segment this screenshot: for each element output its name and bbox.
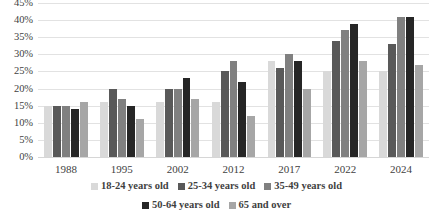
y-axis: 45%40%35%30%25%20%15%10%5%0% [0,0,36,160]
bar [303,89,311,157]
x-axis-tick-label: 2012 [206,160,262,178]
bar-chart: 45%40%35%30%25%20%15%10%5%0% 19881995200… [0,0,433,217]
bar [44,106,52,157]
chart-legend: 18-24 years old25-34 years old35-49 year… [0,177,433,215]
x-axis-tick-label: 1995 [94,160,150,178]
bar-group-inner [44,0,88,157]
x-axis-tick-label: 2002 [150,160,206,178]
bar-group-inner [379,0,423,157]
bar-group-inner [156,0,200,157]
legend-swatch-icon [229,202,236,209]
bar [71,109,79,157]
y-axis-tick-label: 40% [14,15,33,26]
bar [109,89,117,157]
legend-item[interactable]: 65 and over [229,200,292,211]
bar [127,106,135,157]
bar [183,78,191,157]
y-axis-tick-label: 10% [14,118,33,129]
bar-group [206,0,262,157]
y-axis-tick-label: 45% [14,0,33,8]
bar-group [38,0,94,157]
bar [397,17,405,157]
bar [191,99,199,157]
bar [165,89,173,157]
bar [80,102,88,157]
bar-group-inner [323,0,367,157]
legend-swatch-icon [264,183,271,190]
bar-groups [38,0,429,157]
x-axis-tick-label: 2017 [261,160,317,178]
bar [156,102,164,157]
bar [212,102,220,157]
x-axis-tick-label: 1988 [38,160,94,178]
bar [379,71,387,157]
legend-label: 50-64 years old [152,200,220,211]
bar [174,89,182,157]
legend-item[interactable]: 25-34 years old [178,181,256,192]
bar [323,71,331,157]
legend-item[interactable]: 35-49 years old [264,181,342,192]
bar [136,119,144,157]
legend-swatch-icon [91,183,98,190]
bar [285,54,293,157]
y-axis-tick-label: 0% [19,152,33,163]
axis-baseline [38,157,429,158]
bar [276,68,284,157]
bar [53,106,61,157]
bar [350,24,358,157]
legend-item[interactable]: 50-64 years old [142,200,220,211]
legend-swatch-icon [142,202,149,209]
bar [406,17,414,157]
bar [268,61,276,157]
bar-group [373,0,429,157]
bar [221,71,229,157]
y-axis-tick-label: 20% [14,83,33,94]
bar [415,65,423,157]
bar [118,99,126,157]
y-axis-tick-label: 15% [14,100,33,111]
legend-label: 65 and over [239,200,292,211]
y-axis-tick-label: 35% [14,32,33,43]
bar-group-inner [212,0,256,157]
legend-label: 25-34 years old [188,181,256,192]
bar [247,116,255,157]
bar [238,82,246,157]
y-axis-tick-label: 5% [19,135,33,146]
x-axis-tick-label: 2022 [317,160,373,178]
bar-group [317,0,373,157]
legend-row-1: 18-24 years old25-34 years old35-49 year… [0,177,433,196]
bar [230,61,238,157]
x-axis: 1988199520022012201720222024 [38,160,429,178]
bar-group [94,0,150,157]
bar [388,44,396,157]
bar [100,102,108,157]
bar [332,41,340,157]
y-axis-tick-label: 25% [14,66,33,77]
bar-group-inner [268,0,312,157]
legend-label: 18-24 years old [101,181,169,192]
bar-group [261,0,317,157]
legend-label: 35-49 years old [274,181,342,192]
bar [341,30,349,157]
y-axis-tick-label: 30% [14,49,33,60]
legend-swatch-icon [178,183,185,190]
bar-group [150,0,206,157]
bar-group-inner [100,0,144,157]
bar [62,106,70,157]
x-axis-tick-label: 2024 [373,160,429,178]
legend-row-2: 50-64 years old65 and over [0,196,433,215]
plot-area: 45%40%35%30%25%20%15%10%5%0% [0,0,433,160]
bar [359,61,367,157]
legend-item[interactable]: 18-24 years old [91,181,169,192]
bar [294,61,302,157]
